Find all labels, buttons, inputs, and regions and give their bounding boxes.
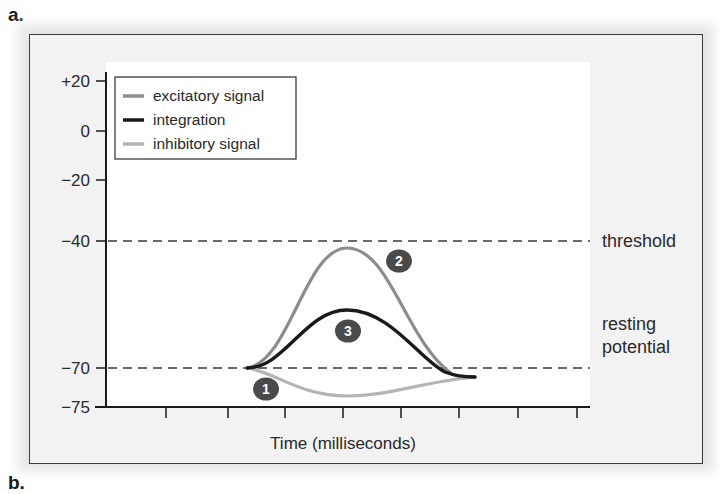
svg-text:3: 3: [344, 323, 352, 339]
resting-potential-label-line2: potential: [602, 337, 670, 357]
y-tick-label: −20: [61, 171, 90, 190]
panel-label-b: b.: [8, 472, 25, 494]
membrane-potential-chart: +20 0 −20 −40 −70 −75 Time (milliseconds…: [0, 0, 720, 494]
svg-text:excitatory signal: excitatory signal: [153, 87, 264, 104]
badge-1: 1: [253, 378, 279, 401]
threshold-label: threshold: [602, 231, 676, 251]
y-tick-label: −40: [61, 232, 90, 251]
badge-3: 3: [335, 320, 361, 343]
y-tick-label: −75: [61, 398, 90, 417]
x-axis-title: Time (milliseconds): [270, 434, 416, 453]
resting-potential-label-line1: resting: [602, 314, 656, 334]
svg-text:integration: integration: [153, 111, 225, 128]
y-tick-label: 0: [81, 122, 90, 141]
svg-text:inhibitory signal: inhibitory signal: [153, 135, 260, 152]
x-ticks: [166, 407, 577, 418]
y-tick-label: −70: [61, 359, 90, 378]
svg-text:2: 2: [395, 253, 403, 269]
legend: excitatory signal integration inhibitory…: [115, 77, 296, 159]
badge-2: 2: [386, 250, 412, 273]
y-tick-label: +20: [61, 72, 90, 91]
y-ticks: [96, 81, 106, 407]
svg-text:1: 1: [262, 381, 270, 397]
